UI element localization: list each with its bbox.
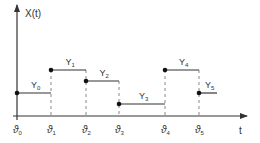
step-point <box>49 68 54 73</box>
step-point <box>117 102 122 107</box>
step-point <box>15 91 20 96</box>
step-point <box>197 91 202 96</box>
tick-label: ϑ4 <box>161 124 171 136</box>
y-axis-label: X(t) <box>25 8 41 19</box>
tick-label: ϑ1 <box>47 124 57 136</box>
dashed-guides <box>51 70 199 116</box>
tick-label: ϑ5 <box>195 124 205 136</box>
segment-label: Y5 <box>205 80 215 91</box>
x-axis-label: t <box>239 125 242 136</box>
segment-label: Y3 <box>139 91 149 102</box>
tick-label: ϑ2 <box>82 124 92 136</box>
step-segments: Y0Y1Y2Y3Y4Y5 <box>15 57 217 106</box>
segment-label: Y0 <box>31 80 41 91</box>
tick-label: ϑ3 <box>115 124 125 136</box>
segment-label: Y1 <box>66 57 76 68</box>
segment-label: Y4 <box>179 57 189 68</box>
tick-label: ϑ0 <box>13 124 23 136</box>
step-function-diagram: X(t) t Y0Y1Y2Y3Y4Y5 ϑ0ϑ1ϑ2ϑ3ϑ4ϑ5 <box>0 0 260 143</box>
tick-labels: ϑ0ϑ1ϑ2ϑ3ϑ4ϑ5 <box>13 124 205 136</box>
step-point <box>163 68 168 73</box>
segment-label: Y2 <box>100 68 110 79</box>
step-point <box>84 79 89 84</box>
